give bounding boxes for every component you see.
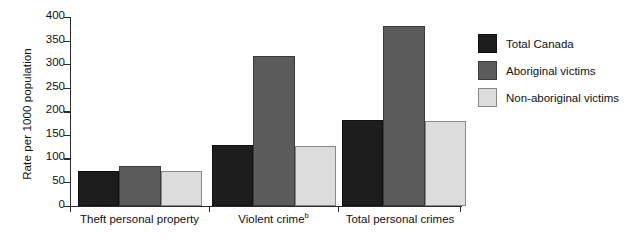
bar [383, 26, 424, 206]
chart-legend: Total CanadaAboriginal victimsNon-aborig… [478, 30, 623, 111]
x-axis-category-label: Total personal crimes [338, 213, 462, 225]
y-tick-label: 350 [46, 33, 65, 45]
y-tick-label: 100 [46, 150, 65, 162]
footnote-marker: b [305, 211, 309, 220]
legend-item: Non-aboriginal victims [478, 84, 623, 111]
x-axis-tick [70, 207, 71, 212]
x-axis-tick [209, 207, 210, 212]
bar [295, 146, 336, 206]
x-axis-category-label: Theft personal property [70, 213, 209, 225]
bar [342, 120, 383, 205]
legend-item: Aboriginal victims [478, 57, 623, 84]
x-axis-line [70, 206, 462, 207]
y-tick-label: 400 [46, 9, 65, 21]
plot-area: 050100150200250300350400 Theft personal … [70, 17, 462, 207]
legend-swatch-icon [478, 34, 497, 53]
bar [425, 121, 466, 206]
y-tick-label: 200 [46, 103, 65, 115]
bar [212, 145, 253, 205]
legend-item: Total Canada [478, 30, 623, 57]
legend-label: Non-aboriginal victims [506, 92, 619, 104]
y-axis-title: Rate per 1000 population [21, 19, 33, 209]
bar [119, 166, 160, 206]
y-tick-label: 250 [46, 80, 65, 92]
legend-swatch-icon [478, 88, 497, 107]
bar-chart-figure: Rate per 1000 population 050100150200250… [0, 0, 625, 239]
bar [161, 171, 202, 205]
legend-label: Aboriginal victims [506, 65, 595, 77]
bar [78, 171, 119, 206]
y-tick-label: 0 [59, 198, 65, 210]
y-tick-label: 300 [46, 56, 65, 68]
y-tick-label: 50 [52, 174, 65, 186]
x-axis-category-label: Violent crimeb [209, 213, 338, 225]
x-axis-tick [460, 207, 461, 212]
y-axis-line [70, 17, 71, 207]
legend-label: Total Canada [506, 38, 574, 50]
legend-swatch-icon [478, 61, 497, 80]
bar [253, 56, 294, 206]
x-axis-tick [338, 207, 339, 212]
y-tick-label: 150 [46, 127, 65, 139]
